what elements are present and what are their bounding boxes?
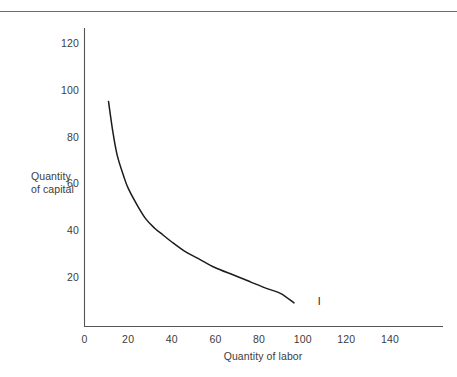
chart-page: 20406080100120 020406080100120140 Quanti… <box>0 0 457 377</box>
y-tick-label-40: 40 <box>67 224 79 236</box>
y-axis-title-line-1: Quantity <box>31 170 74 183</box>
y-tick-label-100: 100 <box>61 84 79 96</box>
x-tick-label-140: 140 <box>381 333 399 345</box>
y-axis-title: Quantity of capital <box>31 170 74 196</box>
y-axis-title-line-2: of capital <box>31 183 74 196</box>
y-tick-label-20: 20 <box>67 271 79 283</box>
x-tick-label-80: 80 <box>253 333 265 345</box>
x-tick-label-100: 100 <box>294 333 312 345</box>
y-tick-label-80: 80 <box>67 131 79 143</box>
x-tick-label-120: 120 <box>337 333 355 345</box>
x-tick-label-40: 40 <box>166 333 178 345</box>
y-tick-label-120: 120 <box>61 37 79 49</box>
x-tick-label-20: 20 <box>122 333 134 345</box>
isoquant-label: I <box>318 295 321 307</box>
isoquant-curve <box>109 101 294 302</box>
x-tick-label-0: 0 <box>81 333 87 345</box>
x-tick-label-60: 60 <box>209 333 221 345</box>
isoquant-chart: 20406080100120 020406080100120140 Quanti… <box>0 0 457 377</box>
x-axis-title: Quantity of labor <box>224 350 303 362</box>
